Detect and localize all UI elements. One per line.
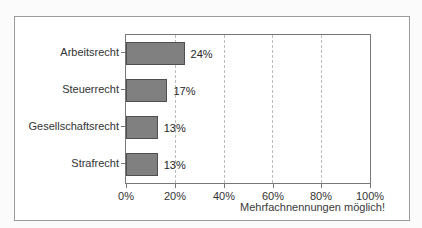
category-label: Steuerrecht: [15, 81, 119, 97]
chart-canvas: Arbeitsrecht Steuerrecht Gesellschaftsre…: [0, 0, 422, 228]
category-label: Gesellschaftsrecht: [15, 118, 119, 134]
x-tick-label: 40%: [213, 190, 235, 202]
x-axis-tick: [370, 184, 371, 188]
x-tick-label: 20%: [164, 190, 186, 202]
category-label: Strafrecht: [15, 155, 119, 171]
x-axis-tick: [224, 184, 225, 188]
bar: [126, 116, 158, 139]
x-axis-tick: [273, 184, 274, 188]
category-label: Arbeitsrecht: [15, 44, 119, 60]
bar-row: 17%: [126, 72, 370, 109]
bar: [126, 79, 167, 102]
bar-row: 13%: [126, 146, 370, 183]
bar-value-label: 13%: [164, 159, 186, 171]
bar: [126, 42, 185, 65]
bar-row: 24%: [126, 35, 370, 72]
chart-frame: Arbeitsrecht Steuerrecht Gesellschaftsre…: [14, 16, 410, 221]
x-axis-tick: [321, 184, 322, 188]
plot-area: 24% 17% 13% 13%: [125, 34, 371, 184]
bar: [126, 153, 158, 176]
bar-value-label: 17%: [173, 85, 195, 97]
x-axis-tick: [175, 184, 176, 188]
x-tick-label: 0%: [118, 190, 134, 202]
bar-value-label: 24%: [191, 48, 213, 60]
bar-value-label: 13%: [164, 122, 186, 134]
x-axis-tick: [126, 184, 127, 188]
footnote: Mehrfachnennungen möglich!: [240, 201, 385, 213]
bar-row: 13%: [126, 109, 370, 146]
